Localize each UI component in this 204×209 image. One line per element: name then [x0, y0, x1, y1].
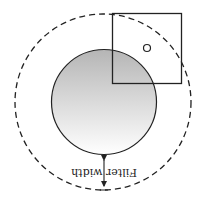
filter-width-diagram: Filter width [0, 0, 204, 209]
inner-shaded-circle [52, 50, 157, 155]
filter-width-label: Filter width [71, 166, 137, 179]
sample-point-circle [144, 45, 151, 52]
